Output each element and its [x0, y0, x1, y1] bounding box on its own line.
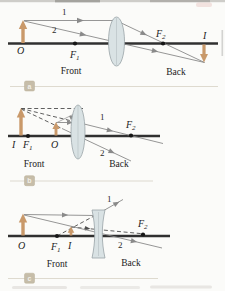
converging-lens [109, 17, 125, 66]
front-label: Front [24, 159, 45, 169]
image-label: I [202, 30, 207, 41]
ray2-number: 2 [52, 25, 57, 35]
figure-canvas: O F1 F2 I 1 2 Front Back a [0, 0, 225, 291]
focal-point-f2 [161, 41, 165, 45]
object-arrow [19, 214, 27, 236]
focal-point-f1 [73, 41, 77, 45]
panel-a: O F1 F2 I 1 2 Front Back a [8, 7, 218, 91]
lens-ray-diagram-figure: O F1 F2 I 1 2 Front Back a [0, 0, 225, 291]
panel-b: I F1 O F2 1 2 Front Back b [8, 105, 163, 186]
converging-lens [71, 105, 85, 159]
object-arrow [19, 20, 27, 43]
ray1-number: 1 [100, 112, 105, 122]
ray2-number: 2 [100, 148, 105, 158]
svg-text:b: b [27, 177, 31, 184]
ray1-number: 1 [107, 194, 112, 204]
back-label: Back [121, 258, 141, 268]
panel-c: O F1 I F2 1 2 Front Back c [8, 194, 170, 283]
focal-point-f2 [141, 232, 145, 236]
image-arrow [17, 108, 25, 136]
image-arrow [200, 45, 208, 63]
focal2-label: F2 [137, 218, 148, 231]
focal-point-f1 [55, 234, 59, 238]
svg-text:c: c [28, 275, 32, 282]
panel-tag-b: b [10, 176, 153, 186]
focal1-label: F1 [22, 139, 33, 152]
panel-tag-c: c [8, 273, 158, 283]
focal-point-f2 [129, 133, 133, 137]
object-label: O [18, 240, 25, 251]
svg-text:a: a [28, 83, 32, 90]
panel-tag-a: a [10, 81, 218, 91]
image-label: I [11, 139, 16, 150]
focal-point-f1 [26, 134, 30, 138]
object-label: O [17, 45, 24, 56]
image-label: I [67, 240, 72, 251]
object-label: O [51, 139, 58, 150]
focal2-label: F2 [155, 28, 166, 41]
front-label: Front [47, 259, 68, 269]
ray2-number: 2 [118, 240, 123, 250]
front-label: Front [61, 66, 82, 76]
back-label: Back [166, 67, 186, 77]
back-label: Back [109, 159, 129, 169]
ray1-number: 1 [62, 7, 67, 17]
focal1-label: F1 [69, 49, 80, 62]
image-arrow [68, 227, 75, 236]
focal2-label: F2 [125, 119, 136, 132]
focal1-label: F1 [50, 241, 61, 254]
